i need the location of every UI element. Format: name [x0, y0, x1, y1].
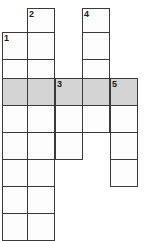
clue-number-1: 1	[4, 33, 9, 43]
cell-c5-r5[interactable]	[110, 132, 138, 160]
cell-c4-r2[interactable]	[82, 59, 110, 79]
cell-c2-r4[interactable]	[27, 105, 55, 133]
cell-c1-r2[interactable]	[2, 59, 28, 79]
cell-c5-r4[interactable]	[110, 105, 138, 133]
clue-number-5: 5	[112, 79, 117, 89]
clue-number-3: 3	[57, 79, 62, 89]
cell-c1-r4[interactable]	[2, 105, 28, 133]
cell-c2-r6[interactable]	[27, 159, 55, 187]
cell-c3-r4[interactable]	[55, 105, 83, 133]
cell-c1-r3[interactable]	[2, 78, 28, 106]
cell-c2-r0[interactable]: 2	[27, 8, 55, 33]
cell-c1-r5[interactable]	[2, 132, 28, 160]
cell-c4-r4[interactable]	[82, 105, 110, 133]
cell-c4-r0[interactable]: 4	[82, 8, 110, 33]
cell-c1-r8[interactable]	[2, 213, 28, 241]
cell-c2-r1[interactable]	[27, 32, 55, 60]
cell-c1-r1[interactable]: 1	[2, 32, 28, 60]
cell-c2-r2[interactable]	[27, 59, 55, 79]
cell-c3-r3[interactable]: 3	[55, 78, 83, 106]
cell-c4-r3[interactable]	[82, 78, 110, 106]
cell-c4-r1[interactable]	[82, 32, 110, 60]
cell-c2-r8[interactable]	[27, 213, 55, 241]
crossword-grid: 24135	[0, 0, 149, 241]
cell-c5-r3[interactable]: 5	[110, 78, 138, 106]
cell-c1-r7[interactable]	[2, 186, 28, 214]
clue-number-4: 4	[84, 9, 89, 19]
cell-c2-r3[interactable]	[27, 78, 55, 106]
cell-c3-r5[interactable]	[55, 132, 83, 160]
clue-number-2: 2	[29, 9, 34, 19]
cell-c2-r7[interactable]	[27, 186, 55, 214]
cell-c2-r5[interactable]	[27, 132, 55, 160]
cell-c5-r6[interactable]	[110, 159, 138, 187]
cell-c1-r6[interactable]	[2, 159, 28, 187]
